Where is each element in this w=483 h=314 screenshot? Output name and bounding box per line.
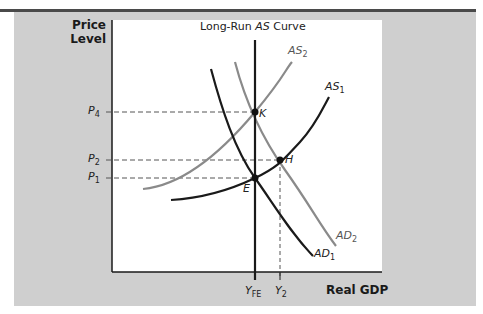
point-e (252, 175, 259, 182)
long-run-as-title: Long-Run AS Curve (200, 20, 306, 33)
yfe-label: YFE (245, 284, 261, 299)
point-k (252, 109, 259, 116)
x-axis-label: Real GDP (326, 283, 388, 297)
e-label: E (243, 182, 250, 195)
y-axis-label: Price Level (56, 18, 106, 46)
ad1-curve (211, 69, 313, 256)
k-label: K (259, 107, 266, 120)
p4-label: P4 (88, 104, 100, 119)
p2-label: P2 (88, 152, 100, 167)
p1-label: P1 (88, 170, 100, 185)
y2-label: Y2 (275, 284, 287, 299)
ad2-label: AD2 (336, 229, 357, 244)
ad1-label: AD1 (314, 247, 335, 262)
as2-label: AS2 (288, 44, 308, 59)
h-label: H (285, 153, 293, 166)
point-h (277, 157, 284, 164)
as-ad-diagram (0, 0, 483, 314)
as1-label: AS1 (325, 80, 345, 95)
